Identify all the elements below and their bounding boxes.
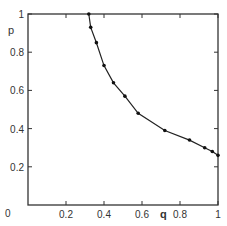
- data-point: [87, 12, 91, 16]
- data-point: [112, 81, 116, 85]
- y-tick-label: 1: [18, 9, 24, 20]
- data-point: [188, 138, 192, 142]
- origin-label: 0: [5, 208, 11, 219]
- plot-frame: [28, 14, 218, 205]
- y-tick-label: 0.6: [10, 85, 24, 96]
- y-axis-label: p: [8, 24, 14, 36]
- x-tick-label: 0.2: [59, 209, 73, 220]
- data-point: [136, 112, 140, 116]
- chart: 0.20.40.60.8110.80.60.40.2 q p 0: [0, 0, 227, 226]
- data-point: [203, 146, 207, 150]
- y-tick-label: 0.8: [10, 47, 24, 58]
- data-markers: [87, 12, 220, 157]
- data-curve: [89, 14, 218, 155]
- axis-ticks: [28, 14, 218, 205]
- x-tick-label: 0.6: [135, 209, 149, 220]
- data-point: [163, 129, 167, 133]
- data-point: [102, 64, 106, 68]
- y-tick-label: 0.2: [10, 162, 24, 173]
- x-tick-label: 1: [215, 209, 221, 220]
- data-point: [211, 150, 215, 154]
- x-axis-label: q: [160, 208, 167, 220]
- axis-tick-labels: 0.20.40.60.8110.80.60.40.2: [10, 9, 221, 220]
- x-tick-label: 0.8: [173, 209, 187, 220]
- y-tick-label: 0.4: [10, 124, 24, 135]
- data-point: [216, 154, 220, 158]
- data-point: [95, 41, 99, 45]
- x-tick-label: 0.4: [97, 209, 111, 220]
- data-point: [123, 94, 127, 98]
- data-point: [89, 26, 93, 30]
